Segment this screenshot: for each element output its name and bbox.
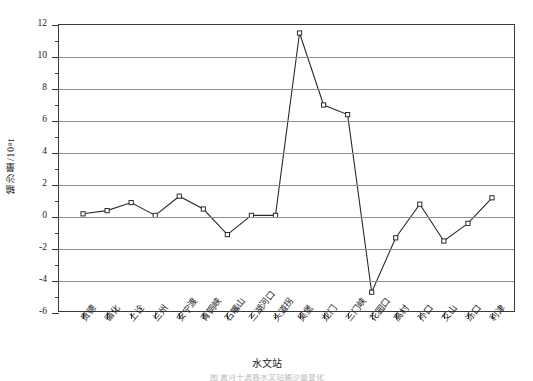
data-point-marker <box>297 31 301 35</box>
y-axis-tick-label: -6 <box>39 307 47 317</box>
y-axis-minor-tick <box>55 73 59 74</box>
y-axis-tick-label: 2 <box>42 179 47 189</box>
data-point-marker <box>321 103 325 107</box>
data-point-marker <box>201 207 205 211</box>
y-axis-title: 输沙量/10⁸t <box>6 138 16 194</box>
y-axis-tick-label: 10 <box>38 51 48 61</box>
data-point-marker <box>346 113 350 117</box>
y-axis-tick-label: 6 <box>42 115 47 125</box>
plot-area <box>58 24 515 312</box>
data-point-marker <box>177 194 181 198</box>
y-axis-tick <box>52 121 59 122</box>
y-axis-minor-tick <box>55 169 59 170</box>
y-axis-tick <box>52 281 59 282</box>
series-polyline <box>83 33 492 292</box>
y-axis-minor-tick <box>55 265 59 266</box>
y-axis-minor-tick <box>55 41 59 42</box>
chart-figure: 输沙量/10⁸t 水文站 图 黄河干流各水文站输沙量变化 121086420-2… <box>0 0 533 381</box>
y-axis-tick <box>52 249 59 250</box>
y-axis-tick-label: -4 <box>39 275 47 285</box>
gridline-y <box>59 281 514 282</box>
data-point-marker <box>466 221 470 225</box>
y-axis-tick-label: -2 <box>39 243 47 253</box>
y-axis-tick-label: 0 <box>42 211 47 221</box>
y-axis-minor-tick <box>55 201 59 202</box>
y-axis-tick-label: 4 <box>42 147 47 157</box>
data-point-marker <box>490 196 494 200</box>
y-axis-minor-tick <box>55 233 59 234</box>
data-point-marker <box>129 201 133 205</box>
gridline-y <box>59 121 514 122</box>
y-axis-minor-tick <box>55 137 59 138</box>
y-axis-tick <box>52 89 59 90</box>
x-axis-title: 水文站 <box>0 358 533 369</box>
y-axis-tick <box>52 185 59 186</box>
y-axis-tick <box>52 57 59 58</box>
y-axis-minor-tick <box>55 297 59 298</box>
data-point-marker <box>442 239 446 243</box>
data-point-marker <box>370 290 374 294</box>
data-point-marker <box>225 233 229 237</box>
gridline-y <box>59 185 514 186</box>
data-point-marker <box>418 202 422 206</box>
gridline-y <box>59 153 514 154</box>
y-axis-minor-tick <box>55 105 59 106</box>
y-axis-tick <box>52 217 59 218</box>
gridline-y <box>59 57 514 58</box>
data-point-marker <box>81 212 85 216</box>
gridline-y <box>59 249 514 250</box>
y-axis-tick-label: 8 <box>42 83 47 93</box>
y-axis-tick <box>52 25 59 26</box>
y-axis-tick <box>52 153 59 154</box>
gridline-y <box>59 217 514 218</box>
data-point-marker <box>394 236 398 240</box>
y-axis-tick <box>52 313 59 314</box>
data-point-marker <box>105 209 109 213</box>
gridline-y <box>59 89 514 90</box>
data-series-line <box>59 25 516 313</box>
figure-caption: 图 黄河干流各水文站输沙量变化 <box>0 374 533 381</box>
y-axis-tick-label: 12 <box>38 19 48 29</box>
